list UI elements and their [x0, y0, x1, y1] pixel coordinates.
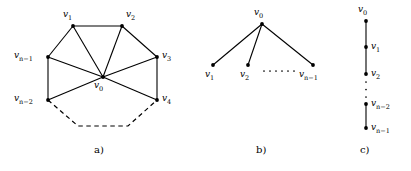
vertex-label-v2: v2	[240, 70, 249, 81]
graph-edges-layer	[0, 0, 411, 171]
ellipsis-dot	[275, 70, 277, 72]
panel-b-graph	[211, 22, 315, 72]
vertex-label-subscript: 1	[68, 14, 72, 22]
vertex-label-v0: v0	[254, 8, 263, 19]
vertex-label-v0: v0	[358, 5, 367, 16]
vertex-dot-vn2	[46, 98, 50, 102]
ellipsis-dot	[287, 70, 289, 72]
vertex-label-subscript: 0	[259, 12, 263, 20]
vertex-label-v1: v1	[371, 42, 380, 53]
vertex-dot-v0	[364, 19, 368, 23]
ellipsis-dot	[281, 70, 283, 72]
ellipsis-dot	[263, 70, 265, 72]
edge-v0-vn1	[48, 57, 103, 77]
vertex-dot-v2	[120, 24, 124, 28]
vertex-label-v1: v1	[205, 70, 214, 81]
vertex-label-v0: v0	[94, 81, 103, 92]
edge-vn1-v1	[48, 26, 73, 57]
edge-v0-v1	[73, 26, 103, 77]
vertex-label-subscript: 4	[167, 98, 171, 106]
panel-c-caption: c)	[360, 145, 370, 155]
vertex-label-v2: v2	[371, 69, 380, 80]
vertex-label-subscript: n−1	[376, 127, 390, 135]
vertex-label-subscript: 2	[131, 14, 135, 22]
ellipsis-dot-vertical	[365, 89, 367, 91]
vertex-dot-v2	[364, 72, 368, 76]
vertex-label-v2: v2	[126, 10, 135, 21]
ellipsis-dot	[269, 70, 271, 72]
vertex-label-subscript: 0	[363, 9, 367, 17]
vertex-label-v1: v1	[63, 10, 72, 21]
vertex-label-v3: v3	[162, 51, 171, 62]
panel-a-graph	[46, 24, 159, 126]
vertex-dot-v0	[260, 22, 264, 26]
edge-v0-v2	[103, 26, 122, 77]
ellipsis-dot-vertical	[365, 96, 367, 98]
vertex-dot-v3	[155, 55, 159, 59]
edge-v0-v4	[103, 77, 157, 100]
figure-container: v0v1v2v3v4vn−2vn−1a)v0v1v2vn−1b)v0v1v2vn…	[0, 0, 411, 171]
vertex-label-subscript: n−1	[19, 55, 33, 63]
vertex-dot-v4	[155, 98, 159, 102]
vertex-dot-vn2	[364, 102, 368, 106]
vertex-label-vn1: vn−1	[371, 123, 390, 134]
ellipsis-dot	[293, 70, 295, 72]
vertex-label-subscript: 2	[245, 74, 249, 82]
vertex-label-subscript: n−2	[376, 103, 390, 111]
vertex-label-vn2: vn−2	[371, 99, 390, 110]
vertex-label-subscript: 1	[210, 74, 214, 82]
panel-c-graph	[364, 19, 368, 130]
vertex-label-v4: v4	[162, 94, 171, 105]
ellipsis-dot-vertical	[365, 81, 367, 83]
vertex-dot-v1	[211, 63, 215, 67]
vertex-label-vn1: vn−1	[299, 70, 318, 81]
vertex-label-subscript: 3	[167, 55, 171, 63]
vertex-label-vn2: vn−2	[14, 94, 33, 105]
dashed-rim-path	[48, 100, 157, 126]
vertex-dot-vn1	[311, 63, 315, 67]
vertex-label-vn1: vn−1	[14, 51, 33, 62]
vertex-label-subscript: 1	[376, 46, 380, 54]
panel-a-caption: a)	[94, 145, 104, 155]
vertex-label-subscript: n−1	[304, 74, 318, 82]
vertex-dot-vn1	[364, 126, 368, 130]
edge-v2-v3	[122, 26, 157, 57]
edge-v0-v3	[103, 57, 157, 77]
edge-v0-vn1	[262, 24, 313, 65]
vertex-label-subscript: n−2	[19, 98, 33, 106]
vertex-dot-v1	[364, 45, 368, 49]
vertex-dot-v2	[246, 63, 250, 67]
vertex-dot-v0	[101, 75, 105, 79]
panel-b-caption: b)	[256, 145, 266, 155]
vertex-dot-v1	[71, 24, 75, 28]
vertex-dot-vn1	[46, 55, 50, 59]
vertex-label-subscript: 2	[376, 73, 380, 81]
vertex-label-subscript: 0	[99, 85, 103, 93]
